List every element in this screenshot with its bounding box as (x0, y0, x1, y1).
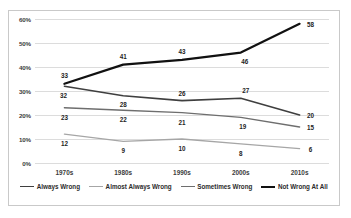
data-label-always-wrong-1990s: 26 (178, 89, 185, 96)
data-label-sometimes-wrong-1990s: 21 (178, 118, 185, 125)
legend-label: Almost Always Wrong (106, 183, 172, 190)
data-label-always-wrong-2010s: 20 (307, 112, 314, 119)
legend-item-always-wrong[interactable]: Always Wrong (20, 183, 80, 190)
data-label-always-wrong-2000s: 27 (242, 87, 249, 94)
y-axis-tick-50: 50% (19, 40, 31, 47)
x-axis-tick-2010s: 2010s (291, 169, 309, 176)
plot-area: 60%50%40%30%20%10%0% 1970s1980s1990s2000… (35, 19, 329, 163)
data-label-almost-always-wrong-1970s: 12 (61, 140, 68, 147)
data-label-not-wrong-at-all-2010s: 58 (307, 20, 314, 27)
legend-swatch-icon (181, 186, 195, 187)
x-axis-tick-1980s: 1980s (114, 169, 132, 176)
legend-swatch-icon (20, 186, 34, 187)
data-label-almost-always-wrong-1980s: 9 (121, 147, 125, 154)
data-label-not-wrong-at-all-1980s: 41 (120, 52, 127, 59)
legend-item-not-wrong-at-all[interactable]: Not Wrong At All (261, 183, 327, 190)
data-label-almost-always-wrong-2010s: 6 (309, 145, 313, 152)
data-label-sometimes-wrong-2010s: 15 (307, 124, 314, 131)
data-label-sometimes-wrong-2000s: 19 (239, 123, 246, 130)
data-label-almost-always-wrong-1990s: 10 (178, 145, 185, 152)
data-label-almost-always-wrong-2000s: 8 (239, 149, 243, 156)
y-axis-tick-0: 0% (22, 160, 31, 167)
chart-frame: 60%50%40%30%20%10%0% 1970s1980s1990s2000… (8, 10, 340, 206)
data-label-sometimes-wrong-1980s: 22 (120, 116, 127, 123)
y-axis-tick-20: 20% (19, 112, 31, 119)
legend-label: Sometimes Wrong (197, 183, 252, 190)
legend-label: Always Wrong (37, 183, 80, 190)
gridline (35, 163, 329, 164)
legend-swatch-icon (261, 186, 275, 188)
x-axis-tick-1970s: 1970s (56, 169, 74, 176)
data-label-always-wrong-1970s: 32 (60, 92, 67, 99)
y-axis-tick-10: 10% (19, 136, 31, 143)
legend-item-almost-always-wrong[interactable]: Almost Always Wrong (89, 183, 172, 190)
data-label-not-wrong-at-all-2000s: 46 (241, 57, 248, 64)
chart-legend: Always WrongAlmost Always WrongSometimes… (9, 183, 339, 190)
data-label-sometimes-wrong-1970s: 23 (61, 113, 68, 120)
y-axis-tick-30: 30% (19, 88, 31, 95)
y-axis-tick-40: 40% (19, 64, 31, 71)
legend-swatch-icon (89, 186, 103, 187)
data-label-always-wrong-1980s: 28 (120, 100, 127, 107)
data-label-not-wrong-at-all-1990s: 43 (178, 47, 185, 54)
legend-item-sometimes-wrong[interactable]: Sometimes Wrong (181, 183, 253, 190)
y-axis-tick-60: 60% (19, 16, 31, 23)
data-label-not-wrong-at-all-1970s: 33 (61, 71, 68, 78)
legend-label: Not Wrong At All (278, 183, 328, 190)
x-axis-tick-2000s: 2000s (232, 169, 250, 176)
x-axis-tick-1990s: 1990s (173, 169, 191, 176)
